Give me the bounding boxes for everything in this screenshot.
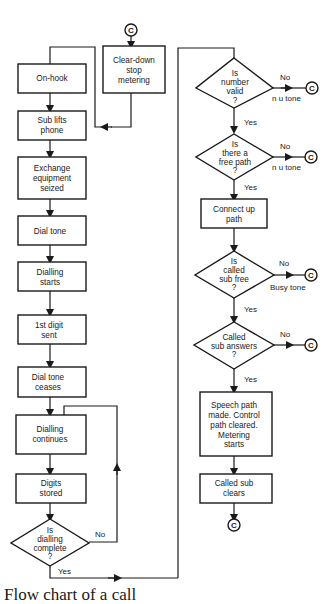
- svg-text:?: ?: [233, 166, 238, 175]
- svg-text:?: ?: [232, 350, 237, 359]
- svg-text:seized: seized: [40, 184, 64, 193]
- svg-text:valid: valid: [227, 87, 244, 96]
- svg-text:C: C: [308, 153, 314, 162]
- svg-text:Is: Is: [231, 257, 237, 266]
- svg-text:continues: continues: [32, 435, 67, 444]
- svg-text:clears: clears: [223, 489, 245, 498]
- step-dial-tone: Dial tone: [18, 216, 86, 245]
- svg-text:Connect up: Connect up: [213, 205, 255, 214]
- svg-text:C: C: [309, 84, 315, 93]
- svg-text:Yes: Yes: [244, 183, 257, 192]
- svg-text:Metering: Metering: [218, 431, 250, 440]
- svg-text:starts: starts: [224, 440, 244, 449]
- svg-text:metering: metering: [118, 76, 150, 85]
- svg-text:Called sub: Called sub: [215, 479, 254, 488]
- decision-is-number-valid: Is number valid ?: [196, 58, 273, 108]
- connector-c-busy: C: [305, 269, 317, 281]
- svg-text:C: C: [128, 26, 134, 35]
- connector-c-number-invalid: C: [306, 82, 318, 94]
- svg-text:No: No: [280, 330, 291, 339]
- clear-down-box: Clear-down stop metering: [103, 46, 165, 93]
- svg-text:Called: Called: [222, 333, 246, 342]
- label-yes-dialling: Yes: [58, 567, 71, 576]
- step-exchange-equipment-seized: Exchange equipment seized: [18, 157, 86, 199]
- svg-text:stored: stored: [40, 489, 63, 498]
- svg-text:?: ?: [48, 552, 53, 561]
- step-digits-stored: Digits stored: [16, 474, 86, 503]
- svg-text:Yes: Yes: [244, 118, 257, 127]
- svg-text:Yes: Yes: [244, 305, 257, 314]
- svg-text:path cleared.: path cleared.: [210, 421, 257, 430]
- svg-text:No: No: [280, 142, 291, 151]
- svg-text:Dial tone: Dial tone: [34, 227, 67, 236]
- svg-text:On-hook: On-hook: [36, 74, 68, 83]
- svg-text:No: No: [280, 73, 291, 82]
- figure-caption: Flow chart of a call: [4, 585, 136, 604]
- svg-text:Is: Is: [232, 69, 238, 78]
- svg-text:?: ?: [233, 96, 238, 105]
- svg-text:Speech path: Speech path: [211, 401, 257, 410]
- decision-called-sub-answers: Called sub answers ?: [194, 322, 274, 369]
- step-sub-lifts-phone: Sub lifts phone: [18, 111, 86, 140]
- svg-text:made. Control: made. Control: [208, 411, 260, 420]
- svg-text:n u tone: n u tone: [272, 94, 301, 103]
- svg-text:starts: starts: [40, 278, 60, 287]
- svg-text:Digits: Digits: [41, 479, 61, 488]
- svg-text:C: C: [308, 341, 314, 350]
- svg-text:n u tone: n u tone: [272, 163, 301, 172]
- svg-text:stop: stop: [126, 66, 142, 75]
- svg-text:called: called: [223, 266, 245, 275]
- svg-text:Dialling: Dialling: [37, 425, 64, 434]
- svg-text:C: C: [231, 521, 237, 530]
- svg-text:C: C: [308, 271, 314, 280]
- svg-text:1st digit: 1st digit: [35, 321, 64, 330]
- svg-text:equipment: equipment: [33, 174, 72, 183]
- svg-text:?: ?: [232, 283, 237, 292]
- step-dialling-continues: Dialling continues: [16, 415, 86, 454]
- connector-c-no-free-path: C: [305, 151, 317, 163]
- svg-text:Dial tone: Dial tone: [32, 373, 65, 382]
- step-dial-tone-ceases: Dial tone ceases: [18, 367, 86, 397]
- svg-text:Exchange: Exchange: [34, 164, 71, 173]
- step-dialling-starts: Dialling starts: [18, 262, 86, 291]
- step-speech-path-made: Speech path made. Control path cleared. …: [200, 392, 272, 456]
- svg-text:there a: there a: [222, 149, 248, 158]
- svg-text:Yes: Yes: [244, 375, 257, 384]
- decision-is-dialling-complete: Is dialling complete ?: [11, 519, 89, 566]
- step-first-digit-sent: 1st digit sent: [18, 315, 86, 344]
- step-called-sub-clears: Called sub clears: [200, 474, 272, 503]
- step-on-hook: On-hook: [18, 64, 86, 93]
- svg-text:path: path: [226, 215, 242, 224]
- svg-text:Clear-down: Clear-down: [113, 56, 155, 65]
- svg-text:phone: phone: [41, 126, 64, 135]
- step-connect-up-path: Connect up path: [201, 199, 267, 228]
- decision-is-there-free-path: Is there a free path ?: [196, 134, 273, 180]
- svg-text:Is: Is: [232, 140, 238, 149]
- connector-c-no-answer: C: [305, 339, 317, 351]
- svg-text:Is: Is: [47, 526, 53, 535]
- connector-c-end: C: [228, 519, 240, 531]
- svg-text:Busy tone: Busy tone: [270, 283, 306, 292]
- svg-text:number: number: [221, 78, 249, 87]
- svg-text:sent: sent: [41, 331, 57, 340]
- svg-text:ceases: ceases: [35, 383, 61, 392]
- svg-text:Sub lifts: Sub lifts: [37, 116, 66, 125]
- svg-text:Dialling: Dialling: [37, 268, 64, 277]
- connector-c-clear-down: C: [125, 24, 137, 36]
- svg-text:No: No: [279, 259, 290, 268]
- svg-text:dialling: dialling: [37, 535, 63, 544]
- decision-is-called-sub-free: Is called sub free ?: [195, 251, 274, 298]
- label-no-dialling: No: [95, 530, 106, 539]
